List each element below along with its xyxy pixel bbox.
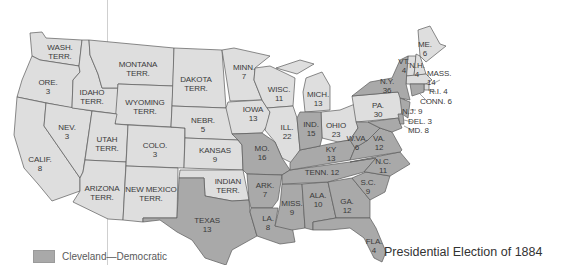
label-nc: N.C. 11 xyxy=(375,157,391,175)
label-nj: N.J. 9 xyxy=(402,107,422,116)
label-idaho: IDAHO TERR. xyxy=(80,88,105,106)
label-utah: UTAH TERR. xyxy=(95,135,119,153)
legend: Cleveland—Democratic xyxy=(33,250,167,263)
label-md: MD. 8 xyxy=(408,126,429,135)
label-ga: GA. 12 xyxy=(340,197,353,215)
label-dakota: DAKOTA TERR. xyxy=(180,75,212,93)
label-la: LA. 8 xyxy=(262,214,274,232)
label-ri: R.I. 4 xyxy=(429,87,448,96)
label-ill: ILL. 22 xyxy=(281,123,294,141)
label-iowa: IOWA 13 xyxy=(243,105,264,123)
label-ind: IND. 15 xyxy=(303,120,319,138)
label-nh: N.H. 4 xyxy=(409,61,425,79)
label-ny: N.Y. 36 xyxy=(380,77,394,95)
label-minn: MINN. 7 xyxy=(233,63,255,81)
label-wyoming: WYOMING TERR. xyxy=(125,98,164,116)
label-va: VA. 12 xyxy=(373,134,385,152)
label-ky: KY 13 xyxy=(326,145,336,163)
label-kansas: KANSAS 9 xyxy=(199,146,231,164)
region-conn xyxy=(410,84,424,96)
label-texas: TEXAS 13 xyxy=(194,216,220,234)
label-mass: MASS. 14 xyxy=(427,69,451,87)
label-calif: CALIF. 8 xyxy=(28,155,51,173)
label-indian: INDIAN TERR. xyxy=(215,177,242,195)
label-conn: CONN. 6 xyxy=(420,97,452,106)
label-tenn: TENN. 12 xyxy=(305,168,339,177)
label-newmexico: NEW MEXICO TERR. xyxy=(125,185,176,203)
label-wva: W.VA. 6 xyxy=(346,134,367,152)
label-me: ME. 6 xyxy=(418,40,432,58)
label-nev: NEV. 3 xyxy=(58,123,76,141)
legend-label-democratic: Cleveland—Democratic xyxy=(62,251,167,262)
label-ala: ALA. 10 xyxy=(310,191,327,209)
label-mo: MO. 16 xyxy=(255,144,270,162)
label-arizona: ARIZONA TERR. xyxy=(85,184,120,202)
label-wash: WASH. TERR. xyxy=(47,43,72,61)
label-ore: ORE. 3 xyxy=(38,78,57,96)
label-vt: VT. 4 xyxy=(398,57,409,75)
label-pa: PA. 30 xyxy=(372,101,384,119)
label-miss: MISS. 9 xyxy=(281,199,302,217)
label-colo: COLO. 3 xyxy=(143,141,167,159)
label-ark: ARK. 7 xyxy=(256,181,274,199)
label-wisc: WISC. 11 xyxy=(268,85,291,103)
label-nebr: NEBR. 5 xyxy=(191,116,215,134)
label-sc: S.C. 9 xyxy=(360,178,375,196)
label-del: DEL. 3 xyxy=(408,117,432,126)
label-mich: MICH. 13 xyxy=(307,90,329,108)
label-ohio: OHIO 23 xyxy=(326,121,346,139)
legend-swatch-democratic xyxy=(33,250,55,263)
map-title: Presidential Election of 1884 xyxy=(384,245,542,259)
label-montana: MONTANA TERR. xyxy=(119,60,158,78)
label-fla: FLA. 4 xyxy=(366,237,383,255)
